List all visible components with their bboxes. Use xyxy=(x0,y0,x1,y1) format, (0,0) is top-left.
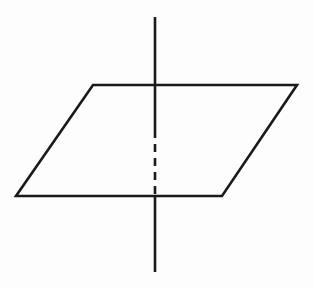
plane-surface xyxy=(16,85,297,196)
figure-canvas: Plane intersected by a perpendicular lin… xyxy=(0,0,313,289)
geometry-diagram: Plane intersected by a perpendicular lin… xyxy=(0,0,313,289)
plane-outline xyxy=(16,85,297,196)
